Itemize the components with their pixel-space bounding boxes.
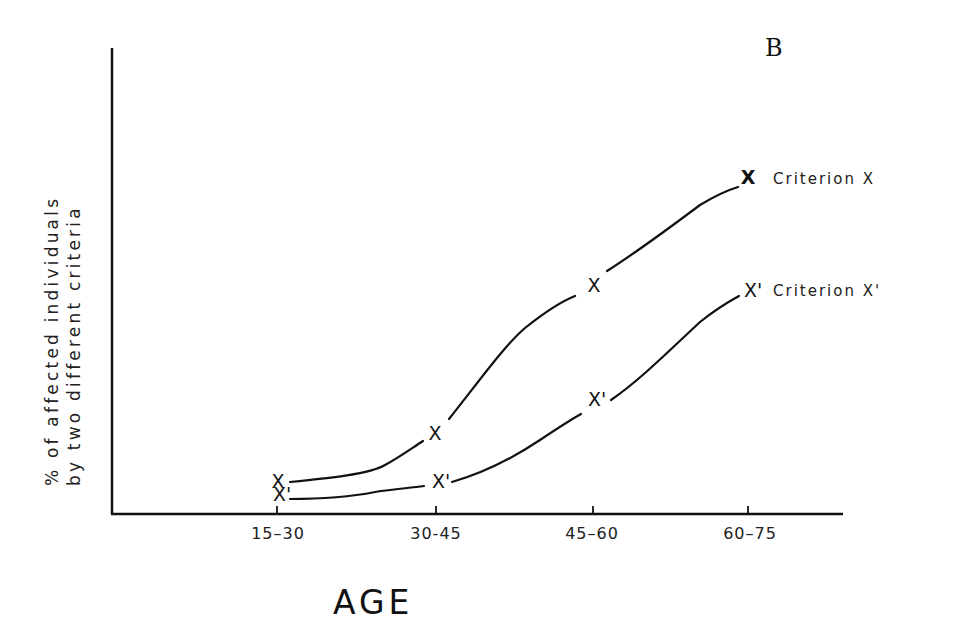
x-tick-label: 60–75: [723, 524, 777, 543]
marker-x-3: X: [587, 274, 600, 296]
x-tick-label: 45–60: [565, 524, 619, 543]
series-criterion-x: [290, 187, 738, 482]
x-axis-title: AGE: [333, 583, 413, 622]
legend-criterion-x: Criterion X: [773, 170, 875, 188]
marker-xprime-3: X': [588, 388, 606, 410]
legend-criterion-x-prime: Criterion X': [773, 282, 881, 300]
marker-xprime-4: X': [744, 279, 762, 301]
marker-xprime-2: X': [432, 470, 450, 492]
marker-x-2: X: [428, 422, 441, 444]
marker-x-4: X: [741, 166, 756, 188]
x-tick-label: 15–30: [251, 524, 305, 543]
x-tick-label: 30-45: [410, 524, 462, 543]
panel-label: B: [765, 34, 783, 62]
marker-xprime-1: X': [273, 483, 291, 505]
series-criterion-x-prime: [290, 296, 739, 499]
line-chart: [0, 0, 958, 631]
